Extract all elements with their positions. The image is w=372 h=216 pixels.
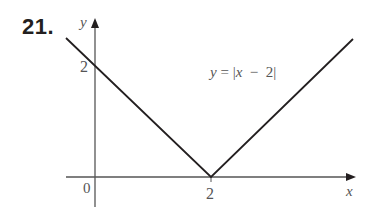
y-axis [91,18,99,207]
x-axis-label: x [345,183,353,199]
origin-label: 0 [83,180,91,196]
y-tick-label-2: 2 [80,58,88,75]
y-axis-label: y [78,14,87,30]
x-axis-arrow-icon [346,173,356,181]
function-curve [66,38,353,177]
x-tick-label-2: 2 [206,185,214,202]
y-axis-arrow-icon [91,18,99,28]
equation-label: y = |x − 2| [208,64,276,80]
graph: y 2 0 2 x y = |x − 2| [0,0,372,216]
